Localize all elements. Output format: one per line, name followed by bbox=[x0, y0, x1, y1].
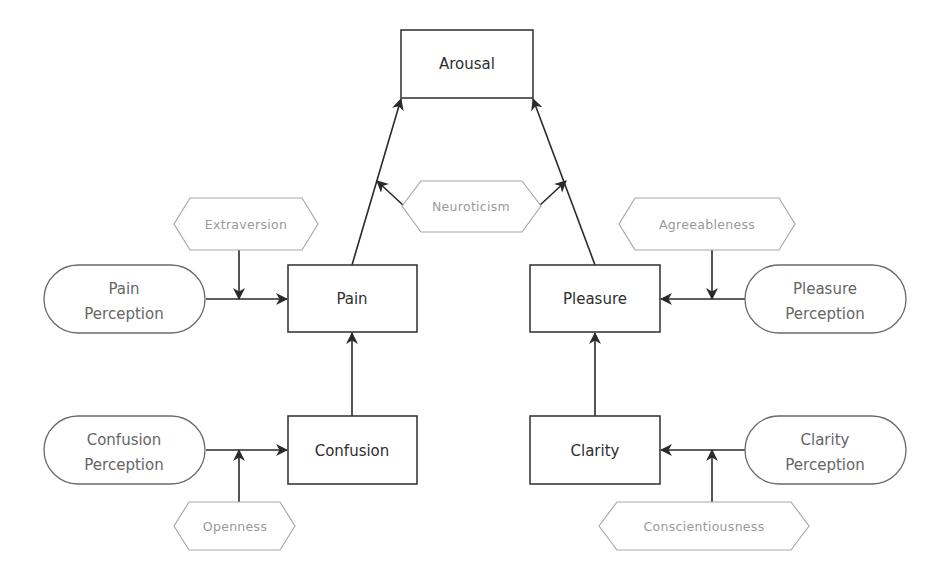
node-arousal-label: Arousal bbox=[439, 55, 495, 73]
node-pleasure-perception-label-1: Pleasure bbox=[793, 280, 857, 298]
node-pain-perception-label-2: Perception bbox=[84, 305, 163, 323]
moderator-openness-label: Openness bbox=[203, 519, 267, 534]
edge-pain-to-arousal bbox=[352, 99, 401, 265]
node-pain: Pain bbox=[288, 265, 417, 332]
moderator-openness: Openness bbox=[174, 502, 295, 550]
moderator-conscientiousness: Conscientiousness bbox=[599, 502, 809, 550]
moderator-conscientiousness-label: Conscientiousness bbox=[644, 519, 765, 534]
node-clarity-perception-label-1: Clarity bbox=[801, 431, 850, 449]
node-clarity-perception: Clarity Perception bbox=[745, 416, 906, 484]
node-clarity-perception-label-2: Perception bbox=[785, 456, 864, 474]
node-confusion-perception-label-1: Confusion bbox=[87, 431, 162, 449]
moderator-agreeableness: Agreeableness bbox=[619, 198, 795, 250]
node-clarity: Clarity bbox=[530, 416, 660, 484]
node-confusion-perception: Confusion Perception bbox=[44, 416, 205, 484]
node-pain-perception: Pain Perception bbox=[44, 265, 205, 333]
edge-neuroticism-to-pain-arousal bbox=[377, 181, 404, 206]
moderator-extraversion-label: Extraversion bbox=[205, 217, 287, 232]
node-confusion-perception-label-2: Perception bbox=[84, 456, 163, 474]
node-pain-perception-label-1: Pain bbox=[108, 280, 139, 298]
node-pain-label: Pain bbox=[336, 290, 367, 308]
moderator-neuroticism: Neuroticism bbox=[402, 181, 541, 232]
edges bbox=[206, 99, 745, 502]
node-clarity-label: Clarity bbox=[571, 442, 620, 460]
edge-neuroticism-to-pleasure-arousal bbox=[539, 181, 566, 206]
sem-diagram: Arousal Pain Pleasure Confusion Clarity … bbox=[0, 0, 942, 583]
node-pleasure-perception-label-2: Perception bbox=[785, 305, 864, 323]
moderator-neuroticism-label: Neuroticism bbox=[432, 199, 510, 214]
node-confusion-label: Confusion bbox=[315, 442, 390, 460]
node-confusion: Confusion bbox=[288, 416, 417, 484]
node-pleasure-perception: Pleasure Perception bbox=[745, 265, 906, 333]
node-pleasure-label: Pleasure bbox=[563, 290, 627, 308]
moderator-extraversion: Extraversion bbox=[174, 198, 318, 250]
node-arousal: Arousal bbox=[401, 30, 533, 98]
node-pleasure: Pleasure bbox=[530, 265, 660, 332]
moderator-agreeableness-label: Agreeableness bbox=[659, 217, 755, 232]
